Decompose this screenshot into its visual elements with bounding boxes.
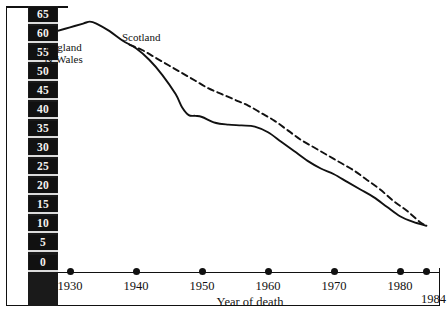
x-tick-label-1950: 1950	[175, 279, 229, 294]
y-tick-65: 65	[29, 7, 57, 22]
y-tick-separator	[28, 231, 58, 233]
y-tick-50: 50	[29, 64, 57, 79]
y-tick-5: 5	[29, 235, 57, 250]
series-canvas	[58, 6, 440, 272]
y-tick-40: 40	[29, 102, 57, 117]
y-tick-45: 45	[29, 83, 57, 98]
x-tick-label-1970: 1970	[307, 279, 361, 294]
y-tick-60: 60	[29, 26, 57, 41]
series-line-england-wales	[58, 22, 426, 226]
series-label-scotland: Scotland	[122, 32, 161, 44]
y-tick-separator	[28, 98, 58, 100]
y-tick-35: 35	[29, 121, 57, 136]
chart-figure: Perinatal deaths per 1000 total births 6…	[0, 0, 447, 318]
x-axis-line	[58, 272, 439, 274]
series-label-england-wales-line1: England	[45, 42, 83, 54]
x-tick-label-1930: 1930	[43, 279, 97, 294]
x-tick-label-1960: 1960	[241, 279, 295, 294]
x-tick-dot-1980	[397, 268, 404, 275]
y-tick-separator	[28, 193, 58, 195]
y-tick-separator	[28, 155, 58, 157]
y-tick-separator	[28, 136, 58, 138]
y-tick-separator	[28, 79, 58, 81]
series-label-england-wales: England & Wales	[45, 42, 83, 65]
x-tick-dot-1960	[265, 268, 272, 275]
series-label-england-wales-line2: & Wales	[45, 54, 83, 66]
x-tick-dot-1930	[67, 268, 74, 275]
y-tick-30: 30	[29, 140, 57, 155]
series-line-scotland	[129, 45, 426, 226]
plot-area	[58, 6, 440, 272]
x-tick-dot-1940	[133, 268, 140, 275]
y-tick-15: 15	[29, 197, 57, 212]
y-tick-separator	[28, 174, 58, 176]
x-tick-label-1940: 1940	[109, 279, 163, 294]
y-tick-separator	[28, 117, 58, 119]
x-tick-dot-1950	[199, 268, 206, 275]
y-tick-separator	[28, 270, 58, 272]
x-tick-dot-1970	[331, 268, 338, 275]
y-tick-10: 10	[29, 216, 57, 231]
x-tick-label-1984: 1984	[406, 292, 447, 307]
y-tick-separator	[28, 22, 58, 24]
x-tick-dot-1984	[423, 268, 430, 275]
y-tick-25: 25	[29, 159, 57, 174]
x-axis-title: Year of death	[150, 295, 350, 310]
y-tick-20: 20	[29, 178, 57, 193]
y-tick-separator	[28, 250, 58, 252]
y-tick-0: 0	[29, 255, 57, 270]
y-tick-separator	[28, 212, 58, 214]
